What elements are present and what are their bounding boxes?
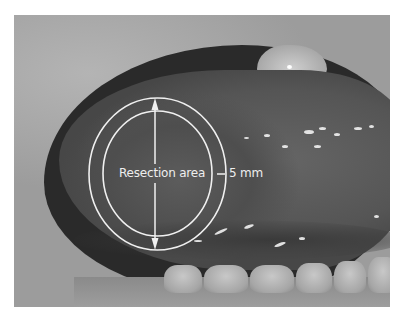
- resection-area-label: Resection area: [119, 166, 205, 180]
- margin-label: 5 mm: [229, 166, 263, 180]
- resection-overlay: [0, 0, 397, 321]
- arrow-up-icon: [152, 98, 159, 110]
- arrow-down-icon: [152, 238, 159, 250]
